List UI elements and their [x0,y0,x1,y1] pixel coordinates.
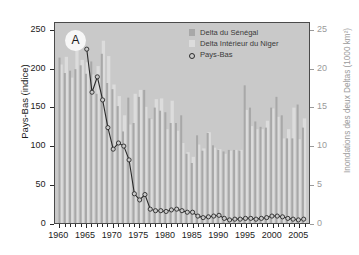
axis-tick-mark [59,224,60,228]
axis-tick-mark [50,146,54,147]
axis-tick-mark [209,224,210,227]
axis-tick-mark [241,224,242,227]
data-point-marker [127,158,131,162]
axis-tick-label: 150 [30,101,45,111]
data-point-marker [259,216,263,220]
axis-tick-mark [91,224,92,227]
legend-label-pays-bas: Pays-Bas [200,50,233,59]
axis-tick-mark [50,224,54,225]
axis-tick-label: 100 [30,140,45,150]
axis-tick-mark [155,224,156,227]
axis-tick-label: 25 [317,24,327,34]
axis-tick-mark [161,224,162,227]
axis-tick-label: 20 [317,63,327,73]
axis-tick-mark [113,224,114,228]
axis-tick-mark [70,224,71,227]
axis-tick-mark [310,107,314,108]
axis-tick-mark [177,224,178,227]
axis-tick-mark [310,185,314,186]
axis-tick-label: 1985 [182,230,202,240]
axis-tick-mark [50,185,54,186]
axis-tick-label: 0 [41,218,46,228]
axis-tick-mark [214,224,215,227]
axis-tick-mark [310,224,314,225]
axis-tick-mark [278,224,279,227]
data-point-marker [296,218,300,222]
axis-tick-label: 2005 [288,230,308,240]
axis-tick-mark [166,224,167,228]
chart-figure: A Delta du Sénégal Delta Intérieur du Ni… [0,0,359,255]
axis-tick-mark [102,224,103,227]
axis-tick-label: 2000 [262,230,282,240]
data-point-marker [175,207,179,211]
axis-tick-mark [299,224,300,228]
axis-tick-mark [257,224,258,227]
axis-tick-label: 50 [36,179,46,189]
axis-tick-mark [267,224,268,227]
data-point-marker [164,209,168,213]
data-point-marker [249,216,253,220]
data-point-marker [106,126,110,130]
axis-tick-mark [134,224,135,227]
axis-tick-mark [262,224,263,227]
axis-tick-mark [305,224,306,227]
data-point-marker [254,217,258,221]
axis-tick-mark [310,69,314,70]
data-point-marker [138,198,142,202]
axis-tick-label: 1990 [208,230,228,240]
axis-tick-label: 1960 [48,230,68,240]
data-point-marker [116,141,120,145]
axis-tick-mark [81,224,82,227]
legend-label-delta-niger: Delta Intérieur du Niger [200,39,279,48]
data-point-marker [275,214,279,218]
data-point-marker [148,207,152,211]
axis-tick-mark [182,224,183,227]
data-point-marker [217,213,221,217]
data-point-marker [201,216,205,220]
legend-item-delta-senegal: Delta du Sénégal [189,27,279,38]
data-point-marker [95,75,99,79]
chart-legend: Delta du Sénégal Delta Intérieur du Nige… [189,27,279,60]
axis-tick-label: 200 [30,63,45,73]
legend-swatch-delta-senegal [189,29,195,36]
axis-tick-mark [150,224,151,227]
data-point-marker [212,214,216,218]
data-point-marker [291,217,295,221]
axis-tick-mark [75,224,76,227]
axis-tick-mark [273,224,274,228]
axis-tick-mark [219,224,220,228]
data-point-marker [280,215,284,219]
axis-tick-mark [107,224,108,227]
axis-tick-mark [187,224,188,227]
data-point-marker [233,217,237,221]
axis-tick-mark [123,224,124,227]
axis-tick-mark [251,224,252,227]
axis-tick-mark [193,224,194,228]
data-point-marker [222,216,226,220]
data-point-marker [265,216,269,220]
data-point-marker [191,210,195,214]
plot-area: A Delta du Sénégal Delta Intérieur du Ni… [54,22,310,224]
axis-tick-mark [235,224,236,227]
data-point-marker [85,47,89,51]
axis-tick-mark [97,224,98,227]
data-point-marker [206,215,210,219]
axis-tick-label: 1965 [75,230,95,240]
axis-tick-label: 1980 [155,230,175,240]
axis-tick-label: 1995 [235,230,255,240]
axis-tick-mark [198,224,199,227]
legend-item-delta-niger: Delta Intérieur du Niger [189,38,279,49]
line-path [87,49,304,220]
axis-tick-label: 5 [317,179,322,189]
data-point-marker [238,217,242,221]
axis-tick-mark [50,30,54,31]
data-point-marker [286,216,290,220]
axis-tick-mark [203,224,204,227]
y-axis-left-title: Pays-Bas (indice) [19,22,30,182]
axis-tick-mark [129,224,130,227]
axis-tick-mark [283,224,284,227]
data-point-marker [143,192,147,196]
axis-tick-mark [294,224,295,227]
axis-tick-mark [310,146,314,147]
axis-tick-label: 15 [317,101,327,111]
